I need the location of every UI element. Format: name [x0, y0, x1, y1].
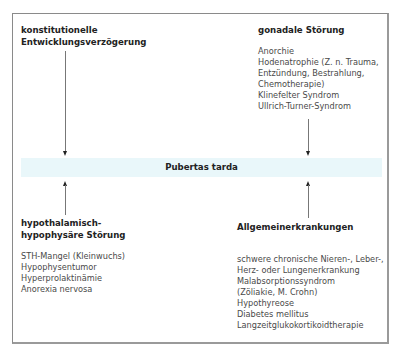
list-item: schwere chronische Nieren-, Leber-,	[237, 254, 384, 265]
arrow-down-icon	[63, 151, 67, 156]
list-item: Ullrich-Turner-Syndrom	[258, 101, 379, 112]
arrow-line	[308, 119, 309, 152]
block-title: gonadale Störung	[258, 25, 379, 37]
item-list: Anorchie Hodenatrophie (Z. n. Trauma, En…	[258, 46, 379, 112]
list-item: Klinefelter Syndrom	[258, 90, 379, 101]
arrow-line	[65, 51, 66, 152]
list-item: Anorexia nervosa	[21, 284, 125, 295]
title-line: konstitutionelle	[21, 25, 146, 37]
title-line: Allgemeinerkrankungen	[237, 222, 384, 234]
list-item: STH-Mangel (Kleinwuchs)	[21, 251, 125, 262]
title-line: hypophysäre Störung	[21, 230, 125, 242]
item-list: schwere chronische Nieren-, Leber-, Herz…	[237, 254, 384, 331]
block-gonadal-disorder: gonadale Störung Anorchie Hodenatrophie …	[258, 25, 379, 112]
list-item: Herz- oder Lungenerkrankung	[237, 265, 384, 276]
list-item: Hypothyreose	[237, 298, 384, 309]
arrow-line	[308, 185, 309, 218]
block-title: hypothalamisch- hypophysäre Störung	[21, 218, 125, 241]
title-line: gonadale Störung	[258, 25, 379, 37]
block-general-diseases: Allgemeinerkrankungen schwere chronische…	[237, 222, 384, 331]
title-line: hypothalamisch-	[21, 218, 125, 230]
block-hypothalamic-pituitary-disorder: hypothalamisch- hypophysäre Störung STH-…	[21, 218, 125, 295]
list-item: Hyperprolaktinämie	[21, 273, 125, 284]
list-item: Chemotherapie)	[258, 79, 379, 90]
arrow-down-icon	[306, 151, 310, 156]
list-item: Diabetes mellitus	[237, 309, 384, 320]
block-title: konstitutionelle Entwicklungsverzögerung	[21, 25, 146, 48]
list-item: Anorchie	[258, 46, 379, 57]
block-title: Allgemeinerkrankungen	[237, 222, 384, 234]
list-item: Malabsorptionssyndrom	[237, 276, 384, 287]
list-item: Entzündung, Bestrahlung,	[258, 68, 379, 79]
list-item: Langzeitglukokortikoidtherapie	[237, 320, 384, 331]
item-list: STH-Mangel (Kleinwuchs) Hypophysentumor …	[21, 251, 125, 295]
list-item: Hypophysentumor	[21, 262, 125, 273]
center-label: Pubertas tarda	[21, 158, 382, 177]
arrow-line	[65, 185, 66, 215]
center-band: Pubertas tarda	[21, 158, 382, 177]
list-item: (Zöliakie, M. Crohn)	[237, 287, 384, 298]
title-line: Entwicklungsverzögerung	[21, 37, 146, 49]
block-constitutional-delay: konstitutionelle Entwicklungsverzögerung	[21, 25, 146, 48]
list-item: Hodenatrophie (Z. n. Trauma,	[258, 57, 379, 68]
